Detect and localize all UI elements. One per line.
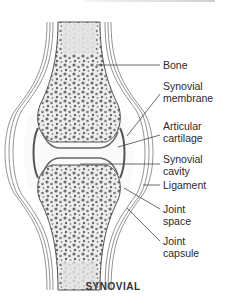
figure-caption: SYNOVIAL: [0, 281, 226, 292]
label-bone: Bone: [163, 59, 188, 71]
label-synovial-membrane: Synovial membrane: [163, 80, 213, 104]
label-ligament: Ligament: [163, 179, 206, 191]
label-joint-space: Joint space: [163, 203, 191, 227]
label-joint-capsule: Joint capsule: [163, 235, 199, 259]
label-synovial-cavity: Synovial cavity: [163, 153, 203, 177]
upper-bone-marrow: [62, 24, 96, 54]
label-articular-cartilage: Articular cartilage: [163, 120, 203, 144]
